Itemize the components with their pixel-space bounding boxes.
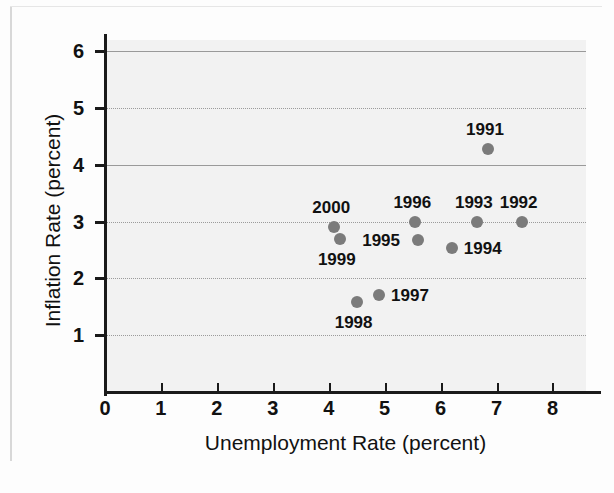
gridline-y-5 xyxy=(105,108,586,109)
data-point-label-1992: 1992 xyxy=(500,194,538,211)
data-point-1998 xyxy=(351,296,363,308)
data-point-1999 xyxy=(334,233,346,245)
data-point-1996 xyxy=(409,216,421,228)
x-tick-label-0: 0 xyxy=(90,398,120,418)
x-tick-label-8: 8 xyxy=(537,398,567,418)
x-tick-3 xyxy=(273,383,275,393)
x-tick-2 xyxy=(217,383,219,393)
x-axis-title: Unemployment Rate (percent) xyxy=(105,432,586,453)
data-point-label-2000: 2000 xyxy=(312,199,350,216)
gridline-y-4 xyxy=(105,165,586,166)
x-tick-label-3: 3 xyxy=(258,398,288,418)
x-tick-7 xyxy=(497,383,499,393)
data-point-label-1995: 1995 xyxy=(362,232,400,249)
figure-border-left xyxy=(10,6,12,461)
data-point-label-1991: 1991 xyxy=(466,121,504,138)
x-tick-label-5: 5 xyxy=(370,398,400,418)
data-point-1991 xyxy=(482,143,494,155)
y-axis-title: Inflation Rate (percent) xyxy=(42,51,63,391)
x-tick-1 xyxy=(161,383,163,393)
x-tick-label-4: 4 xyxy=(314,398,344,418)
y-tick-6 xyxy=(95,50,107,53)
x-axis-line xyxy=(104,391,601,394)
data-point-label-1994: 1994 xyxy=(464,240,502,257)
gridline-y-1 xyxy=(105,335,586,336)
y-tick-3 xyxy=(95,221,107,224)
data-point-1993 xyxy=(471,216,483,228)
x-tick-label-7: 7 xyxy=(482,398,512,418)
data-point-1995 xyxy=(412,234,424,246)
y-tick-1 xyxy=(95,334,107,337)
data-point-2000 xyxy=(328,221,340,233)
figure-border-top xyxy=(10,6,602,7)
gridline-y-2 xyxy=(105,278,586,279)
x-tick-8 xyxy=(552,383,554,393)
x-tick-label-6: 6 xyxy=(426,398,456,418)
y-tick-5 xyxy=(95,107,107,110)
x-tick-4 xyxy=(329,383,331,393)
x-tick-5 xyxy=(385,383,387,393)
gridline-y-6 xyxy=(105,51,586,52)
data-point-label-1998: 1998 xyxy=(335,314,373,331)
y-tick-2 xyxy=(95,277,107,280)
data-point-label-1993: 1993 xyxy=(455,194,493,211)
y-axis-line xyxy=(104,34,107,396)
data-point-1992 xyxy=(516,216,528,228)
x-tick-6 xyxy=(441,383,443,393)
gridline-y-3 xyxy=(105,222,586,223)
x-tick-label-1: 1 xyxy=(146,398,176,418)
data-point-1994 xyxy=(446,242,458,254)
scatter-chart-figure: 123456 012345678 19911992199319941995199… xyxy=(0,0,614,493)
data-point-1997 xyxy=(373,289,385,301)
data-point-label-1996: 1996 xyxy=(393,194,431,211)
data-point-label-1999: 1999 xyxy=(318,251,356,268)
data-point-label-1997: 1997 xyxy=(391,287,429,304)
y-tick-4 xyxy=(95,164,107,167)
x-tick-label-2: 2 xyxy=(202,398,232,418)
